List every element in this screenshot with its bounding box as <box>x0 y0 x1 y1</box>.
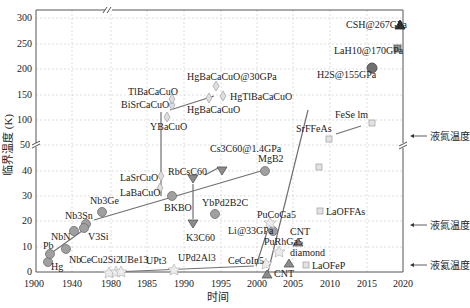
svg-text:HgBaCaCuO: HgBaCaCuO <box>187 104 240 115</box>
svg-text:CeCoIn5: CeCoIn5 <box>228 255 264 266</box>
svg-text:UBe13: UBe13 <box>120 254 148 265</box>
svg-text:FeSe lm: FeSe lm <box>335 109 368 120</box>
svg-text:Nb3Ge: Nb3Ge <box>90 195 119 206</box>
svg-text:BiSrCaCuO: BiSrCaCuO <box>121 99 169 110</box>
svg-text:SrFFeAs: SrFFeAs <box>296 123 332 134</box>
svg-text:1995: 1995 <box>211 278 231 289</box>
svg-text:RbCsC60: RbCsC60 <box>168 166 207 177</box>
svg-text:K3C60: K3C60 <box>186 232 215 243</box>
svg-text:液氦温度: 液氦温度 <box>430 259 470 271</box>
svg-text:1985: 1985 <box>137 278 157 289</box>
svg-text:200: 200 <box>17 63 32 74</box>
svg-text:100: 100 <box>17 114 32 125</box>
svg-text:50: 50 <box>20 139 30 150</box>
svg-text:30: 30 <box>22 190 32 201</box>
svg-text:液氮温度: 液氮温度 <box>430 219 470 231</box>
svg-text:10: 10 <box>22 241 32 252</box>
svg-text:300: 300 <box>17 12 32 23</box>
svg-text:CNT: CNT <box>274 268 294 279</box>
svg-text:1900: 1900 <box>24 278 44 289</box>
svg-text:UPt3: UPt3 <box>146 255 167 266</box>
svg-text:Cs3C60@1.4GPa: Cs3C60@1.4GPa <box>210 143 282 154</box>
svg-text:CeCu2Si2: CeCu2Si2 <box>80 254 121 265</box>
x-tick-labels: 1900 1940 1980 1985 1990 1995 2000 2005 … <box>24 278 413 289</box>
svg-text:0: 0 <box>27 266 32 277</box>
svg-text:YbPd2B2C: YbPd2B2C <box>202 197 248 208</box>
svg-text:BKBO: BKBO <box>164 202 192 213</box>
svg-text:Nb3Sn: Nb3Sn <box>65 210 93 221</box>
svg-text:LaOFFAs: LaOFFAs <box>326 206 365 217</box>
svg-text:CNT: CNT <box>290 226 310 237</box>
svg-text:1980: 1980 <box>101 278 121 289</box>
svg-text:LaSrCuO: LaSrCuO <box>120 172 158 183</box>
svg-text:LaOFeP: LaOFeP <box>312 260 346 271</box>
svg-text:1940: 1940 <box>62 278 82 289</box>
svg-text:NbN: NbN <box>51 231 70 242</box>
svg-text:PuRhGa5: PuRhGa5 <box>264 236 303 247</box>
svg-text:2000: 2000 <box>247 278 267 289</box>
svg-text:TlBaCaCuO: TlBaCaCuO <box>128 86 178 97</box>
svg-text:PuCoGa5: PuCoGa5 <box>257 209 296 220</box>
y-tick-labels: 0 10 20 30 40 50 100 150 200 250 300 <box>17 12 32 277</box>
svg-text:UPd2Al3: UPd2Al3 <box>178 252 216 263</box>
svg-text:40: 40 <box>22 165 32 176</box>
svg-text:2015: 2015 <box>357 278 377 289</box>
svg-text:250: 250 <box>17 38 32 49</box>
svg-text:diamond: diamond <box>290 247 325 258</box>
svg-text:YBaCuO: YBaCuO <box>150 121 187 132</box>
svg-text:V3Si: V3Si <box>88 231 109 242</box>
svg-text:150: 150 <box>17 89 32 100</box>
svg-text:2020: 2020 <box>393 278 413 289</box>
svg-text:Hg: Hg <box>51 261 63 272</box>
y-axis-title: 临界温度 (K) <box>1 114 15 176</box>
svg-text:液氮温度: 液氮温度 <box>430 130 470 142</box>
svg-text:2010: 2010 <box>320 278 340 289</box>
svg-text:HgBaCaCuO@30GPa: HgBaCaCuO@30GPa <box>187 71 277 82</box>
svg-text:20: 20 <box>22 215 32 226</box>
svg-text:LaBaCuO: LaBaCuO <box>120 187 161 198</box>
svg-text:HgTlBaCaCuO: HgTlBaCaCuO <box>230 91 292 102</box>
svg-text:CSH@267GPa: CSH@267GPa <box>346 19 407 30</box>
x-axis-title: 时间 <box>207 291 229 303</box>
svg-text:LaH10@170GPa: LaH10@170GPa <box>334 45 404 56</box>
svg-text:1990: 1990 <box>174 278 194 289</box>
point-labels: Hg Pb Nb NbN Nb3Sn V3Si Nb3Ge BKBO YbPd2… <box>43 19 407 279</box>
svg-text:Li@33GPa: Li@33GPa <box>228 225 274 236</box>
svg-text:MgB2: MgB2 <box>258 153 284 164</box>
tc-history-chart: 0 10 20 30 40 50 100 150 200 250 300 190… <box>0 0 470 308</box>
svg-text:H2S@155GPa: H2S@155GPa <box>317 69 377 80</box>
temperature-reference-annotations: 液氮温度 液氮温度 液氦温度 <box>410 130 470 271</box>
svg-text:2005: 2005 <box>283 278 303 289</box>
